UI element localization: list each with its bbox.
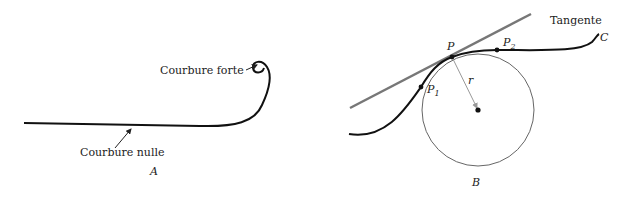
point-p-label: P <box>446 40 455 53</box>
strong-curvature-label: Courbure forte <box>160 64 244 77</box>
panel-b-label: B <box>471 176 480 189</box>
tangent-label: Tangente <box>550 14 602 27</box>
point-p1-label: P1 <box>426 83 440 98</box>
curve-c-label: C <box>600 31 609 44</box>
point-p2 <box>495 48 500 53</box>
strong-curvature-arrow <box>246 65 257 70</box>
curve-c <box>349 34 599 135</box>
point-p1 <box>419 85 424 90</box>
center-point <box>475 107 480 112</box>
radius-label: r <box>468 74 474 87</box>
zero-curvature-label: Courbure nulle <box>80 146 165 159</box>
panel-b: P P1 P2 r Tangente C B <box>349 14 609 189</box>
panel-a-label: A <box>149 165 158 178</box>
point-p <box>450 55 455 60</box>
panel-a: Courbure forte Courbure nulle A <box>24 62 270 178</box>
tangent-line <box>350 14 531 108</box>
point-p2-label: P2 <box>502 36 516 51</box>
curvature-diagram: Courbure forte Courbure nulle A P P1 P2 … <box>0 0 627 197</box>
